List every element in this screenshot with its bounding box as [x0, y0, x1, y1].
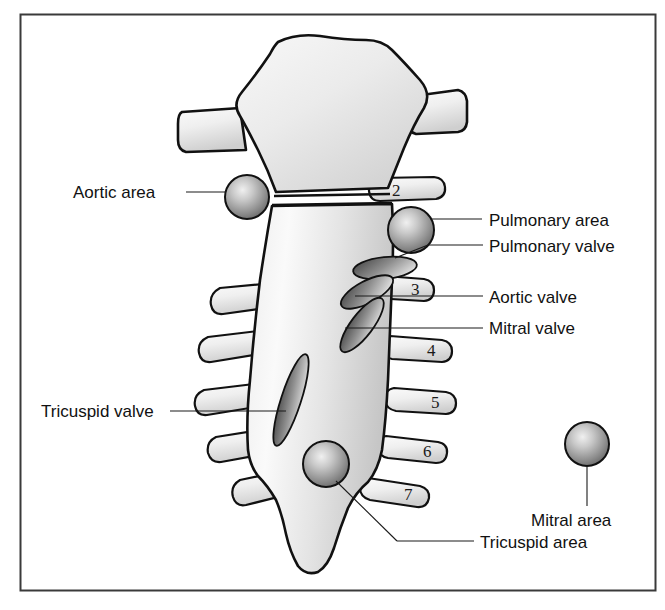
rib-number-2: 2 — [392, 181, 401, 200]
rib-number-5: 5 — [431, 393, 440, 412]
pulmonary-area-sphere[interactable] — [388, 207, 434, 253]
figure-root: Surface anatomy of cardiac auscultation … — [0, 0, 665, 610]
tricuspid-area-sphere[interactable] — [303, 441, 349, 487]
clavicle-left — [178, 108, 246, 152]
label-tricuspid-area: Tricuspid area — [480, 533, 588, 552]
anatomy-diagram-svg: Surface anatomy of cardiac auscultation … — [0, 0, 665, 610]
rib-right-6 — [378, 436, 447, 463]
label-aortic-area: Aortic area — [73, 183, 156, 202]
rib-number-7: 7 — [404, 485, 413, 504]
label-pulmonary-area: Pulmonary area — [489, 211, 610, 230]
label-tricuspid-valve: Tricuspid valve — [41, 402, 154, 421]
label-mitral-area: Mitral area — [531, 511, 612, 530]
label-mitral-valve: Mitral valve — [489, 319, 575, 338]
mitral-area-sphere[interactable] — [565, 422, 609, 466]
rib-right-7 — [360, 478, 429, 507]
rib-right-4 — [381, 336, 452, 362]
rib-number-4: 4 — [427, 341, 436, 360]
rib-right-5 — [385, 388, 456, 414]
label-pulmonary-valve: Pulmonary valve — [489, 237, 615, 256]
aortic-area-sphere[interactable] — [225, 175, 269, 219]
manubrium — [236, 35, 427, 192]
label-aortic-valve: Aortic valve — [489, 288, 577, 307]
rib-number-6: 6 — [423, 442, 432, 461]
